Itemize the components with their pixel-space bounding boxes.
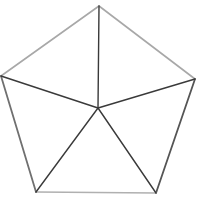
pentagon-diagram: [0, 0, 209, 214]
spoke-bottom-left: [36, 108, 98, 192]
edge-top-right: [99, 6, 195, 79]
edge-left: [1, 76, 36, 192]
diagram-canvas: [0, 0, 209, 214]
edge-bottom: [36, 192, 156, 193]
edge-top-left: [1, 6, 99, 76]
spoke-right: [98, 79, 195, 108]
spoke-bottom-right: [98, 108, 156, 193]
edge-right: [156, 79, 195, 193]
spoke-left: [1, 76, 98, 108]
spoke-top: [98, 6, 99, 108]
